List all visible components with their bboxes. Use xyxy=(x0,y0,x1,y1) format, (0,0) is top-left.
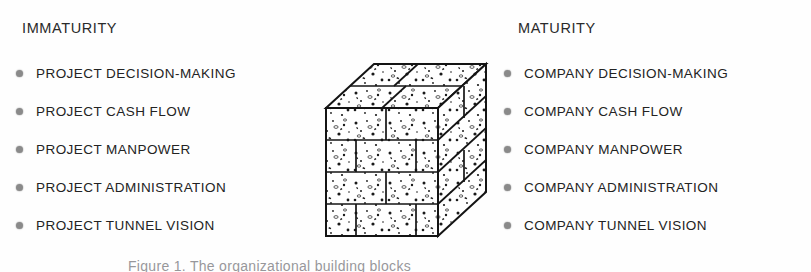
list-item: PROJECT TUNNEL VISION xyxy=(16,206,236,244)
list-item-label: COMPANY ADMINISTRATION xyxy=(524,180,718,195)
list-item: COMPANY ADMINISTRATION xyxy=(504,168,728,206)
list-item-label: PROJECT MANPOWER xyxy=(36,142,191,157)
list-item-label: PROJECT DECISION-MAKING xyxy=(36,66,236,81)
bullet-list-immaturity: PROJECT DECISION-MAKING PROJECT CASH FLO… xyxy=(16,54,236,244)
list-item: PROJECT CASH FLOW xyxy=(16,92,236,130)
figure-caption: Figure 1. The organizational building bl… xyxy=(128,258,411,272)
list-item: PROJECT DECISION-MAKING xyxy=(16,54,236,92)
isometric-brick-cube-illustration xyxy=(318,58,494,244)
bullet-dot-icon xyxy=(16,108,23,115)
bullet-dot-icon xyxy=(504,184,511,191)
list-item: COMPANY TUNNEL VISION xyxy=(504,206,728,244)
list-item: COMPANY MANPOWER xyxy=(504,130,728,168)
bullet-dot-icon xyxy=(16,70,23,77)
bullet-dot-icon xyxy=(504,146,511,153)
bullet-dot-icon xyxy=(16,184,23,191)
bullet-list-maturity: COMPANY DECISION-MAKING COMPANY CASH FLO… xyxy=(504,54,728,244)
column-heading-maturity: MATURITY xyxy=(518,20,596,36)
bullet-dot-icon xyxy=(16,146,23,153)
list-item-label: PROJECT CASH FLOW xyxy=(36,104,190,119)
bullet-dot-icon xyxy=(504,70,511,77)
list-item: COMPANY DECISION-MAKING xyxy=(504,54,728,92)
figure-sheet: IMMATURITY PROJECT DECISION-MAKING PROJE… xyxy=(0,0,811,272)
bullet-dot-icon xyxy=(504,222,511,229)
list-item: COMPANY CASH FLOW xyxy=(504,92,728,130)
list-item-label: COMPANY DECISION-MAKING xyxy=(524,66,728,81)
list-item-label: PROJECT TUNNEL VISION xyxy=(36,218,215,233)
column-heading-immaturity: IMMATURITY xyxy=(22,20,117,36)
bullet-dot-icon xyxy=(504,108,511,115)
list-item-label: PROJECT ADMINISTRATION xyxy=(36,180,226,195)
bullet-dot-icon xyxy=(16,222,23,229)
list-item: PROJECT MANPOWER xyxy=(16,130,236,168)
list-item-label: COMPANY CASH FLOW xyxy=(524,104,683,119)
list-item-label: COMPANY MANPOWER xyxy=(524,142,683,157)
list-item: PROJECT ADMINISTRATION xyxy=(16,168,236,206)
list-item-label: COMPANY TUNNEL VISION xyxy=(524,218,707,233)
